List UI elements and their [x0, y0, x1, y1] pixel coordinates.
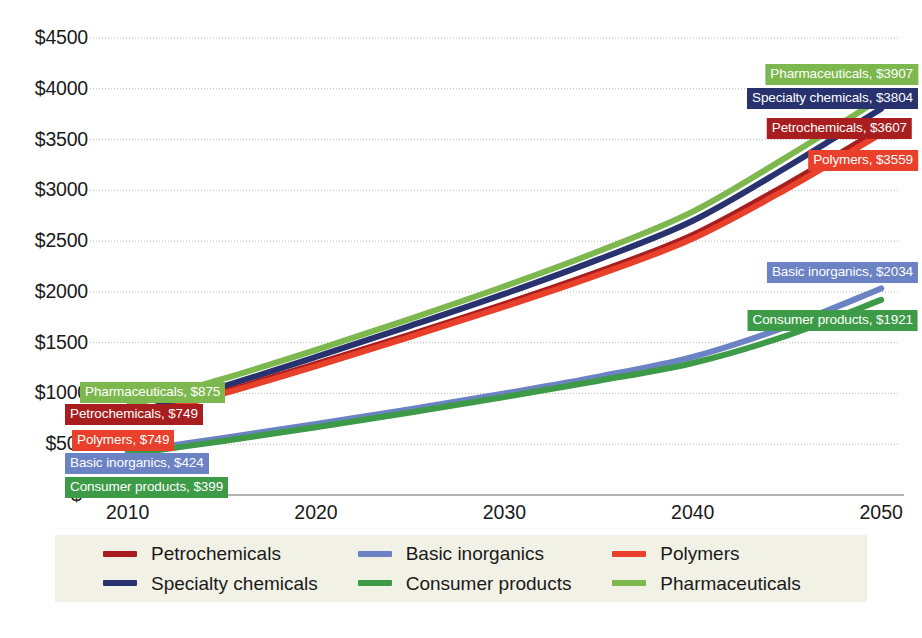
legend-swatch-icon: [612, 551, 646, 557]
legend-item-pharmaceuticals[interactable]: Pharmaceuticals: [612, 574, 867, 593]
point-label-consumer-products-start: Consumer products, $399: [65, 477, 228, 498]
point-label-polymers-start: Polymers, $749: [72, 430, 174, 451]
point-label-pharmaceuticals-start: Pharmaceuticals, $875: [80, 382, 225, 403]
legend-swatch-icon: [358, 580, 392, 586]
point-label-pharmaceuticals-end: Pharmaceuticals, $3907: [765, 64, 918, 85]
legend: PetrochemicalsBasic inorganicsPolymersSp…: [55, 535, 867, 602]
legend-label: Pharmaceuticals: [660, 574, 800, 593]
point-label-polymers-end: Polymers, $3559: [808, 150, 918, 171]
legend-swatch-icon: [103, 551, 137, 557]
legend-item-basic-inorganics[interactable]: Basic inorganics: [358, 544, 613, 563]
legend-item-specialty-chemicals[interactable]: Specialty chemicals: [103, 574, 358, 593]
legend-item-consumer-products[interactable]: Consumer products: [358, 574, 613, 593]
point-label-petrochemicals-start: Petrochemicals, $749: [65, 404, 203, 425]
data-point-labels: Pharmaceuticals, $875Petrochemicals, $74…: [0, 0, 922, 530]
point-label-basic-inorganics-start: Basic inorganics, $424: [65, 453, 209, 474]
legend-label: Consumer products: [406, 574, 572, 593]
point-label-petrochemicals-end: Petrochemicals, $3607: [767, 118, 912, 139]
legend-item-petrochemicals[interactable]: Petrochemicals: [103, 544, 358, 563]
legend-label: Polymers: [660, 544, 739, 563]
legend-item-polymers[interactable]: Polymers: [612, 544, 867, 563]
point-label-basic-inorganics-end: Basic inorganics, $2034: [767, 262, 918, 283]
legend-swatch-icon: [358, 551, 392, 557]
line-chart: $-$500$1000$1500$2000$2500$3000$3500$400…: [0, 0, 922, 638]
legend-label: Basic inorganics: [406, 544, 544, 563]
point-label-consumer-products-end: Consumer products, $1921: [748, 310, 918, 331]
legend-label: Specialty chemicals: [151, 574, 318, 593]
legend-swatch-icon: [103, 580, 137, 586]
legend-swatch-icon: [612, 580, 646, 586]
legend-label: Petrochemicals: [151, 544, 281, 563]
point-label-specialty-chemicals-end: Specialty chemicals, $3804: [747, 88, 918, 109]
